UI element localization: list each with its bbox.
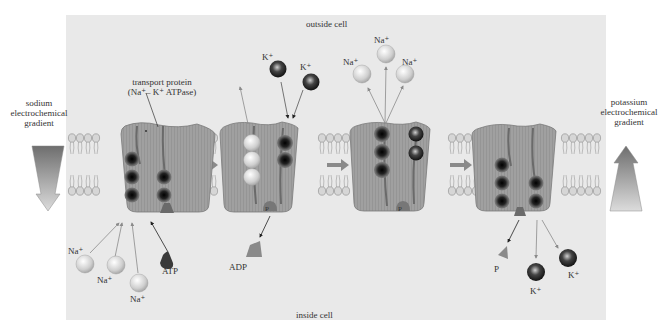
k-ion-label: K⁺ (568, 270, 579, 280)
adp-molecule (246, 241, 262, 257)
sodium-gradient-label-line1: sodium (4, 98, 74, 108)
phosphate-released (498, 246, 508, 259)
protein-stage-3 (350, 45, 430, 211)
sodium-gradient-label-line3: gradient (4, 118, 74, 128)
na-ion (377, 45, 395, 63)
phosphate-label: P (265, 204, 269, 214)
outside-cell-label: outside cell (306, 19, 347, 29)
na-ion-label: Na⁺ (68, 246, 83, 256)
k-ion (527, 263, 545, 281)
potassium-gradient-arrow (610, 146, 642, 211)
stage-1-ions (76, 222, 173, 292)
sodium-gradient-arrow (32, 146, 64, 211)
inside-cell-label: inside cell (296, 310, 333, 320)
potassium-gradient-label-line1: potassium (594, 97, 664, 107)
potassium-gradient-label-line2: electrochemical (594, 107, 664, 117)
potassium-gradient-label-line3: gradient (594, 117, 664, 127)
na-ion (353, 65, 371, 83)
sodium-gradient-label-line2: electrochemical (4, 108, 74, 118)
adp-label: ADP (229, 262, 247, 272)
phosphate-label: P (398, 204, 402, 214)
na-ion (107, 256, 125, 274)
phosphate-label: P (494, 264, 499, 274)
arrow-stage-3-to-4 (450, 159, 472, 171)
k-ion-label: K⁺ (262, 52, 273, 62)
protein-stage-2 (220, 61, 320, 258)
na-ion (130, 274, 148, 292)
na-ion (76, 255, 94, 273)
na-ion-label: Na⁺ (402, 57, 417, 67)
transport-protein-label-line1: transport protein (122, 77, 202, 87)
arrow-stage-2-to-3 (327, 159, 349, 171)
na-ion-label: Na⁺ (343, 57, 358, 67)
k-ion-label: K⁺ (300, 62, 311, 72)
na-ion-label: Na⁺ (130, 294, 145, 304)
k-ion (559, 249, 577, 267)
k-ion (303, 74, 320, 91)
protein-stage-4 (472, 124, 577, 281)
k-ion-label: K⁺ (530, 286, 541, 296)
na-ion-label: Na⁺ (374, 35, 389, 45)
transport-protein-label-line2: (Na⁺– K⁺ ATPase) (122, 87, 202, 97)
k-ion (270, 61, 287, 78)
protein-stage-1 (121, 93, 215, 213)
atp-label: ATP (162, 266, 178, 276)
na-ion (396, 65, 414, 83)
na-ion-label: Na⁺ (97, 275, 112, 285)
